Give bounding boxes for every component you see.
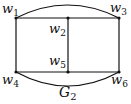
label-w3: w3 bbox=[110, 0, 127, 17]
node-w3 bbox=[117, 16, 120, 19]
label-w1: w1 bbox=[2, 1, 19, 18]
label-w2: w2 bbox=[49, 21, 66, 38]
graph-canvas: w1 w2 w3 w4 w5 w6 G2 bbox=[0, 0, 131, 104]
graph-title: G2 bbox=[59, 84, 77, 102]
graph-diagram: w1 w2 w3 w4 w5 w6 G2 bbox=[0, 0, 131, 104]
label-w6: w6 bbox=[111, 72, 128, 89]
edge-w1-w3-arc bbox=[16, 5, 119, 18]
node-w4 bbox=[14, 70, 17, 73]
label-w5: w5 bbox=[49, 53, 66, 70]
node-w2 bbox=[66, 16, 69, 19]
label-w4: w4 bbox=[2, 72, 19, 89]
node-w5 bbox=[66, 70, 69, 73]
